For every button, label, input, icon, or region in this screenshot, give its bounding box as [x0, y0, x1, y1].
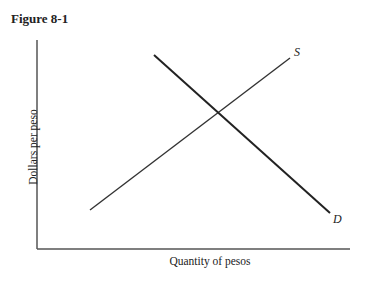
demand-label: D: [333, 212, 342, 227]
y-axis-label: Dollars per peso: [27, 92, 39, 202]
x-axis-label: Quantity of pesos: [130, 255, 290, 267]
demand-curve: [154, 55, 330, 213]
supply-label: S: [294, 45, 300, 60]
supply-curve: [90, 58, 290, 210]
chart-plot: [0, 0, 368, 281]
